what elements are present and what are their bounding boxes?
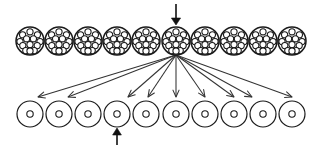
single-dot-1 (56, 111, 62, 117)
cluster-dot-8-4 (257, 36, 263, 42)
single-dot-9 (289, 111, 295, 117)
cluster-dot-0-5 (30, 36, 36, 42)
cluster-dot-5-4 (170, 36, 176, 42)
single-dot-2 (85, 111, 91, 117)
cluster-dot-6-4 (199, 36, 205, 42)
single-dot-0 (27, 111, 33, 117)
cluster-dot-9-8 (289, 42, 295, 48)
dispersal-arrow-0 (38, 55, 176, 98)
cluster-dot-3-12 (114, 48, 120, 54)
cluster-dot-8-12 (260, 48, 266, 54)
cluster-dot-5-8 (173, 42, 179, 48)
dispersal-arrow-shaft-8 (176, 55, 292, 97)
single-circle-0 (17, 101, 43, 127)
single-dot-7 (231, 111, 237, 117)
cluster-dot-7-0 (231, 29, 237, 35)
bottom-output-arrow (113, 128, 122, 145)
dispersal-arrow-shaft-0 (38, 55, 176, 97)
single-circle-6 (192, 101, 218, 127)
dispersal-arrow-7 (176, 55, 252, 97)
dispersal-arrow-8 (176, 55, 292, 98)
dispersal-arrow-6 (176, 55, 234, 97)
cluster-dot-3-4 (111, 36, 117, 42)
cluster-dot-3-0 (114, 29, 120, 35)
cluster-dot-2-8 (85, 42, 91, 48)
cluster-dot-4-0 (143, 29, 149, 35)
cluster-dot-3-8 (114, 42, 120, 48)
cluster-dot-0-0 (27, 29, 33, 35)
single-circle-3 (104, 101, 130, 127)
cluster-dot-7-5 (234, 36, 240, 42)
cluster-dot-5-12 (173, 48, 179, 54)
single-circle-1 (46, 101, 72, 127)
cluster-dot-9-5 (292, 36, 298, 42)
single-circle-7 (221, 101, 247, 127)
cluster-dot-1-0 (56, 29, 62, 35)
cluster-dot-5-5 (176, 36, 182, 42)
dispersal-arrow-shaft-1 (68, 55, 176, 97)
cluster-0 (16, 27, 44, 55)
cluster-dot-1-12 (56, 48, 62, 54)
single-dot-4 (143, 111, 149, 117)
cluster-1 (45, 27, 73, 55)
cluster-dot-6-0 (202, 29, 208, 35)
dispersal-arrow-head-5 (199, 90, 205, 97)
cluster-dot-7-12 (231, 48, 237, 54)
cluster-dot-6-8 (202, 42, 208, 48)
top-input-arrow-head (171, 18, 180, 25)
dispersal-arrow-5 (176, 55, 205, 97)
single-dot-5 (173, 111, 179, 117)
single-circle-8 (250, 101, 276, 127)
cluster-dot-7-8 (231, 42, 237, 48)
cluster-dot-3-5 (117, 36, 123, 42)
single-circle-5 (163, 101, 189, 127)
cluster-dot-2-5 (88, 36, 94, 42)
cluster-dot-4-4 (140, 36, 146, 42)
dispersal-arrow-head-3 (148, 90, 154, 97)
single-dot-8 (260, 111, 266, 117)
single-dot-3 (114, 111, 120, 117)
single-circle-4 (133, 101, 159, 127)
cluster-dot-8-8 (260, 42, 266, 48)
cluster-dot-0-4 (24, 36, 30, 42)
single-circle-9 (279, 101, 305, 127)
cluster-7 (220, 27, 248, 55)
cluster-dot-4-5 (146, 36, 152, 42)
dispersal-arrows-group (38, 55, 292, 98)
cluster-dot-0-12 (27, 48, 33, 54)
dispersal-arrow-shaft-7 (176, 55, 252, 97)
cluster-3 (103, 27, 131, 55)
cluster-2 (74, 27, 102, 55)
cluster-dot-1-5 (59, 36, 65, 42)
dispersal-arrow-4 (173, 55, 179, 97)
dispersal-arrow-shaft-6 (176, 55, 234, 97)
cluster-dot-4-12 (143, 48, 149, 54)
cluster-dot-8-5 (263, 36, 269, 42)
cluster-6 (191, 27, 219, 55)
cluster-dot-9-4 (286, 36, 292, 42)
cluster-dot-6-5 (205, 36, 211, 42)
cluster-dot-9-0 (289, 29, 295, 35)
cluster-dot-7-4 (228, 36, 234, 42)
multi-particle-clusters-group (16, 27, 306, 55)
cluster-dot-1-4 (53, 36, 59, 42)
cluster-5 (162, 27, 190, 55)
cluster-dot-8-0 (260, 29, 266, 35)
dispersal-arrow-1 (68, 55, 176, 97)
cluster-dot-9-12 (289, 48, 295, 54)
cluster-dot-2-0 (85, 29, 91, 35)
cluster-8 (249, 27, 277, 55)
cluster-dot-5-0 (173, 29, 179, 35)
diagram-canvas (0, 0, 317, 148)
cluster-dot-6-12 (202, 48, 208, 54)
cluster-9 (278, 27, 306, 55)
cluster-4 (132, 27, 160, 55)
diagram-svg (0, 0, 317, 148)
bottom-output-arrow-head (113, 128, 122, 135)
cluster-dot-4-8 (143, 42, 149, 48)
single-particle-circles-group (17, 101, 305, 127)
cluster-dot-0-8 (27, 42, 33, 48)
cluster-dot-2-12 (85, 48, 91, 54)
single-circle-2 (75, 101, 101, 127)
cluster-dot-2-4 (82, 36, 88, 42)
